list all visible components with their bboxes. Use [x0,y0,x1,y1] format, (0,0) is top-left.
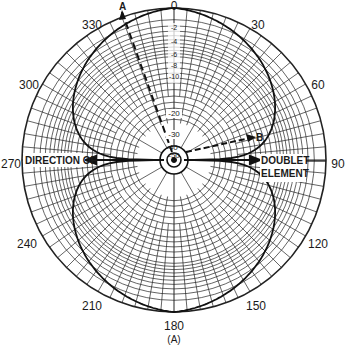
angle-label-240: 240 [17,237,37,251]
angle-label-120: 120 [308,237,328,251]
doublet-label: DOUBLET [261,155,309,166]
angle-label-30: 30 [251,18,265,32]
marker-a-dashed-line [122,12,172,152]
angle-label-150: 150 [246,299,266,313]
angle-label-180: 180 [164,319,184,333]
angle-label-270: 270 [1,157,21,171]
radial-label--20: -20 [168,109,180,118]
angle-label-210: 210 [82,299,102,313]
angle-label-300: 300 [19,78,39,92]
right-arrow-icon [250,156,260,164]
angle-label-0: 0 [171,0,178,13]
marker-b-dashed-line [186,138,250,152]
radial-label--2: -2 [171,24,177,31]
polar-chart: 0 30 60 90 120 150 180 210 240 270 300 3… [0,0,349,346]
element-label: ELEMENT [261,168,309,179]
radial-label--4: -4 [171,38,177,45]
figure-caption: (A) [167,334,180,345]
angle-label-60: 60 [311,78,325,92]
radial-label--6: -6 [171,51,177,58]
radial-label--30: -30 [168,130,180,139]
radial-label--50: -50 [168,151,180,160]
marker-b-label: B [256,132,263,143]
radial-label--10: -10 [169,73,179,80]
marker-b-arrow-icon [246,134,256,142]
angle-label-90: 90 [331,157,345,171]
direction-of-label: DIRECTION OF [25,155,97,166]
radial-label--8: -8 [171,62,177,69]
marker-a-label: A [119,1,126,12]
angle-label-330: 330 [82,18,102,32]
